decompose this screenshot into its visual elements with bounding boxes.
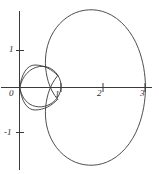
x-axis-tick-label-2: 2 (97, 89, 102, 98)
y-axis-tick-label-1: 1 (9, 45, 14, 54)
y-axis-tick-label-neg1: -1 (4, 128, 12, 137)
limacon-outer-loop-lower (45, 76, 145, 166)
x-axis-tick-label-1: 1 (55, 90, 60, 99)
limacon-outer-loop-upper (45, 10, 145, 100)
x-axis-tick-label-3: 3 (140, 89, 145, 98)
polar-curve-figure: 0 1 2 3 1 -1 (0, 0, 159, 174)
plot-canvas (0, 0, 159, 174)
axis-origin-label: 0 (9, 89, 14, 98)
